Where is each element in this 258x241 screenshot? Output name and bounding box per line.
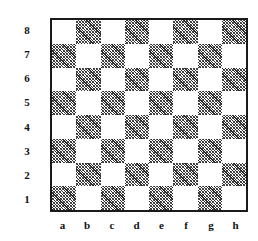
- square-e4: [149, 115, 173, 139]
- square-b8: [76, 20, 100, 44]
- square-f4: [173, 115, 197, 139]
- square-b5: [76, 91, 100, 115]
- square-e5: [149, 91, 173, 115]
- square-a7: [52, 44, 76, 68]
- square-g1: [198, 186, 222, 210]
- rank-label-4: 4: [14, 115, 40, 139]
- square-c3: [101, 139, 125, 163]
- square-d2: [125, 163, 149, 187]
- square-d5: [125, 91, 149, 115]
- file-label-c: c: [100, 216, 125, 234]
- square-g8: [198, 20, 222, 44]
- square-g3: [198, 139, 222, 163]
- square-a4: [52, 115, 76, 139]
- square-a1: [52, 186, 76, 210]
- square-d3: [125, 139, 149, 163]
- rank-label-1: 1: [14, 188, 40, 212]
- square-e1: [149, 186, 173, 210]
- square-f7: [173, 44, 197, 68]
- file-label-a: a: [50, 216, 75, 234]
- square-f6: [173, 68, 197, 92]
- rank-label-6: 6: [14, 67, 40, 91]
- square-h1: [222, 186, 246, 210]
- square-a5: [52, 91, 76, 115]
- square-e3: [149, 139, 173, 163]
- file-label-b: b: [75, 216, 100, 234]
- square-e8: [149, 20, 173, 44]
- square-a8: [52, 20, 76, 44]
- square-f5: [173, 91, 197, 115]
- square-a2: [52, 163, 76, 187]
- square-h7: [222, 44, 246, 68]
- square-b3: [76, 139, 100, 163]
- square-d1: [125, 186, 149, 210]
- file-label-f: f: [174, 216, 199, 234]
- file-label-g: g: [199, 216, 224, 234]
- scan-speck: [136, 119, 138, 121]
- square-g2: [198, 163, 222, 187]
- square-a3: [52, 139, 76, 163]
- square-f3: [173, 139, 197, 163]
- square-h2: [222, 163, 246, 187]
- file-label-row: a b c d e f g h: [50, 216, 248, 234]
- square-c2: [101, 163, 125, 187]
- rank-label-column: 8 7 6 5 4 3 2 1: [14, 18, 40, 212]
- square-b6: [76, 68, 100, 92]
- square-b4: [76, 115, 100, 139]
- square-c4: [101, 115, 125, 139]
- square-g7: [198, 44, 222, 68]
- square-g6: [198, 68, 222, 92]
- square-h8: [222, 20, 246, 44]
- square-c1: [101, 186, 125, 210]
- square-h6: [222, 68, 246, 92]
- square-d8: [125, 20, 149, 44]
- file-label-d: d: [124, 216, 149, 234]
- square-c7: [101, 44, 125, 68]
- rank-label-8: 8: [14, 18, 40, 42]
- square-e7: [149, 44, 173, 68]
- file-label-e: e: [149, 216, 174, 234]
- square-h5: [222, 91, 246, 115]
- square-b1: [76, 186, 100, 210]
- chessboard-diagram: 8 7 6 5 4 3 2 1 a b c d e f g h: [0, 0, 258, 241]
- square-c5: [101, 91, 125, 115]
- square-g4: [198, 115, 222, 139]
- square-b7: [76, 44, 100, 68]
- square-c8: [101, 20, 125, 44]
- square-c6: [101, 68, 125, 92]
- square-g5: [198, 91, 222, 115]
- square-d7: [125, 44, 149, 68]
- square-e6: [149, 68, 173, 92]
- chessboard-grid: [50, 18, 248, 212]
- square-f2: [173, 163, 197, 187]
- rank-label-5: 5: [14, 91, 40, 115]
- square-b2: [76, 163, 100, 187]
- square-a6: [52, 68, 76, 92]
- square-h4: [222, 115, 246, 139]
- file-label-h: h: [223, 216, 248, 234]
- square-d6: [125, 68, 149, 92]
- square-e2: [149, 163, 173, 187]
- square-f8: [173, 20, 197, 44]
- rank-label-2: 2: [14, 164, 40, 188]
- square-f1: [173, 186, 197, 210]
- rank-label-3: 3: [14, 139, 40, 163]
- rank-label-7: 7: [14, 42, 40, 66]
- square-h3: [222, 139, 246, 163]
